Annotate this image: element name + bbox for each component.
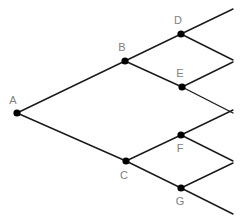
tree-node-D[interactable]	[177, 30, 184, 37]
tree-edge-D-up	[181, 9, 233, 34]
tree-node-B[interactable]	[121, 57, 128, 64]
tree-edge-E-up	[182, 62, 233, 87]
tree-node-label-B: B	[118, 41, 125, 53]
tree-node-E[interactable]	[178, 83, 185, 90]
tree-edge-A-C	[17, 113, 126, 161]
tree-edge-E-down	[182, 87, 233, 113]
tree-node-label-F: F	[177, 142, 184, 154]
tree-edge-G-down	[181, 188, 233, 214]
tree-node-G[interactable]	[177, 184, 184, 191]
nodes-group	[13, 30, 185, 191]
tree-node-C[interactable]	[122, 157, 129, 164]
tree-edge-F-up	[181, 110, 233, 135]
tree-edge-C-F	[126, 135, 181, 161]
tree-edge-B-E	[125, 61, 182, 87]
tree-diagram-canvas: ABCDEFG	[0, 0, 244, 223]
tree-edge-F-down	[181, 135, 233, 161]
tree-node-A[interactable]	[13, 109, 20, 116]
tree-node-label-C: C	[120, 169, 128, 181]
tree-node-label-D: D	[174, 14, 182, 26]
tree-edge-G-up	[181, 163, 233, 188]
tree-node-label-E: E	[176, 67, 183, 79]
tree-node-label-G: G	[176, 195, 185, 207]
node-labels-group: ABCDEFG	[9, 14, 184, 207]
tree-edge-D-down	[181, 34, 233, 60]
tree-edge-C-G	[126, 161, 181, 188]
tree-edge-B-D	[125, 34, 181, 61]
tree-node-label-A: A	[9, 94, 17, 106]
tree-diagram: ABCDEFG	[0, 0, 244, 223]
tree-node-F[interactable]	[177, 131, 184, 138]
tree-edge-A-B	[17, 61, 125, 113]
edges-group	[17, 9, 233, 214]
